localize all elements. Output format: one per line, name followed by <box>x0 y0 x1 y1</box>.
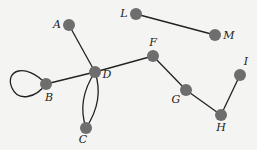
edge-b-d <box>46 72 95 84</box>
edge-g-h <box>186 90 221 115</box>
node-label-a: A <box>52 18 61 31</box>
node-a <box>63 19 75 31</box>
node-label-f: F <box>148 36 157 49</box>
node-h <box>215 109 227 121</box>
node-d <box>89 66 101 78</box>
edge-f-g <box>153 56 186 90</box>
node-label-b: B <box>44 91 53 104</box>
node-label-c: C <box>79 133 88 146</box>
edge-l-m <box>136 14 215 35</box>
edge-d-c <box>83 72 95 128</box>
node-g <box>180 84 192 96</box>
node-l <box>130 8 142 20</box>
edge-d-c <box>86 72 98 128</box>
node-label-l: L <box>119 7 127 20</box>
node-label-h: H <box>215 121 226 134</box>
edge-h-i <box>221 75 240 115</box>
node-label-i: I <box>243 55 249 68</box>
node-label-d: D <box>102 68 112 81</box>
edges-layer <box>10 14 240 128</box>
edge-a-d <box>69 25 95 72</box>
nodes-layer <box>40 8 246 134</box>
node-m <box>209 29 221 41</box>
node-label-g: G <box>172 93 181 106</box>
node-b <box>40 78 52 90</box>
node-i <box>234 69 246 81</box>
node-f <box>147 50 159 62</box>
node-label-m: M <box>222 29 235 42</box>
graph-diagram: ALMFDBCGHI <box>0 0 257 150</box>
